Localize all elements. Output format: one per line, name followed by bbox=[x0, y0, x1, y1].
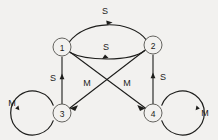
edge-1-to-2-upper-label: S bbox=[102, 6, 108, 16]
node-3-label: 3 bbox=[60, 109, 65, 119]
edge-2-to-3-label: M bbox=[83, 78, 91, 88]
node-4-label: 4 bbox=[151, 109, 156, 119]
edge-4-to-2-arrowhead bbox=[151, 73, 156, 79]
edge-1-to-4-label: M bbox=[123, 78, 131, 88]
edge-3-to-1-label: S bbox=[50, 73, 56, 83]
edge-1-to-4: M bbox=[70, 52, 146, 111]
edge-3-to-1: S bbox=[50, 57, 64, 104]
self-loop-3-label: M bbox=[8, 98, 16, 108]
node-2[interactable]: 2 bbox=[144, 36, 162, 54]
self-loop-4-arrowhead bbox=[196, 106, 200, 111]
edge-4-to-2: S bbox=[151, 55, 166, 104]
node-1[interactable]: 1 bbox=[53, 38, 71, 56]
edge-2-to-1-lower-arrowhead bbox=[102, 55, 109, 59]
node-3[interactable]: 3 bbox=[53, 104, 71, 122]
node-4[interactable]: 4 bbox=[144, 104, 162, 122]
self-loop-3-arrowhead bbox=[15, 106, 19, 111]
graph-canvas: M M S S S S bbox=[0, 0, 218, 140]
edge-4-to-2-label: S bbox=[160, 72, 166, 82]
edge-2-to-1-lower: S bbox=[70, 42, 145, 59]
self-loop-node-4: M bbox=[162, 91, 209, 135]
self-loop-4-label: M bbox=[201, 108, 209, 118]
self-loop-3-path bbox=[11, 91, 54, 135]
edge-2-to-1-lower-label: S bbox=[103, 42, 109, 52]
edge-1-to-2-upper-path bbox=[69, 25, 146, 42]
node-1-label: 1 bbox=[60, 43, 65, 53]
self-loop-node-3: M bbox=[8, 91, 53, 135]
self-loop-4-path bbox=[162, 91, 205, 135]
edge-1-to-2-upper: S bbox=[69, 6, 146, 42]
edge-3-to-1-arrowhead bbox=[60, 74, 65, 80]
node-2-label: 2 bbox=[151, 41, 156, 51]
state-transition-diagram: M M S S S S bbox=[0, 0, 218, 140]
